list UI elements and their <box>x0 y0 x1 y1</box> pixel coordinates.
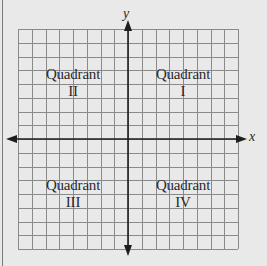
quadrant-iii-word: Quadrant <box>46 177 100 193</box>
quadrant-ii-word: Quadrant <box>46 66 100 82</box>
y-axis-label: y <box>123 7 129 21</box>
quadrant-i-word: Quadrant <box>156 66 210 82</box>
quadrant-ii-label: Quadrant II <box>18 66 128 99</box>
quadrant-iii-label: Quadrant III <box>18 177 128 210</box>
x-axis-left-arrow-icon <box>6 135 17 143</box>
quadrant-iv-word: Quadrant <box>156 177 210 193</box>
y-axis-up-arrow-icon <box>124 20 132 31</box>
x-axis-label: x <box>249 130 255 144</box>
y-axis-down-arrow-icon <box>124 245 132 256</box>
y-axis <box>124 20 132 256</box>
coordinate-plane-figure: y x Quadrant II Quadrant I Quadrant III … <box>0 0 267 266</box>
x-axis <box>6 135 247 143</box>
quadrant-i-label: Quadrant I <box>128 66 238 99</box>
quadrant-iv-label: Quadrant IV <box>128 177 238 210</box>
quadrant-iv-numeral: IV <box>128 194 238 210</box>
quadrant-iii-numeral: III <box>18 194 128 210</box>
x-axis-right-arrow-icon <box>236 135 247 143</box>
quadrant-ii-numeral: II <box>18 83 128 99</box>
coordinate-grid <box>0 0 267 266</box>
quadrant-i-numeral: I <box>128 83 238 99</box>
